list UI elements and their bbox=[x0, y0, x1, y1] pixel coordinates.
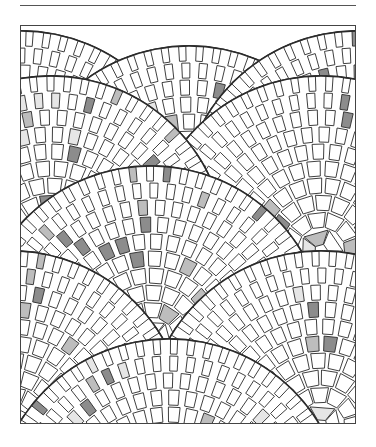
paving-pattern-figure bbox=[20, 25, 356, 424]
top-rule bbox=[20, 5, 356, 6]
fan-cobblestone-illustration bbox=[21, 26, 356, 424]
